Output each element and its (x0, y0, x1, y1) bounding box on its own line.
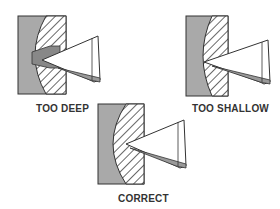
too-deep-illustration (10, 10, 110, 100)
correct-illustration (96, 102, 196, 192)
label-too-deep: TOO DEEP (36, 103, 89, 114)
label-correct: CORRECT (118, 193, 169, 204)
panel-too-deep (10, 10, 110, 100)
panel-too-shallow (180, 10, 280, 100)
panel-correct (96, 102, 196, 192)
label-too-shallow: TOO SHALLOW (192, 103, 269, 114)
too-shallow-illustration (180, 10, 280, 100)
